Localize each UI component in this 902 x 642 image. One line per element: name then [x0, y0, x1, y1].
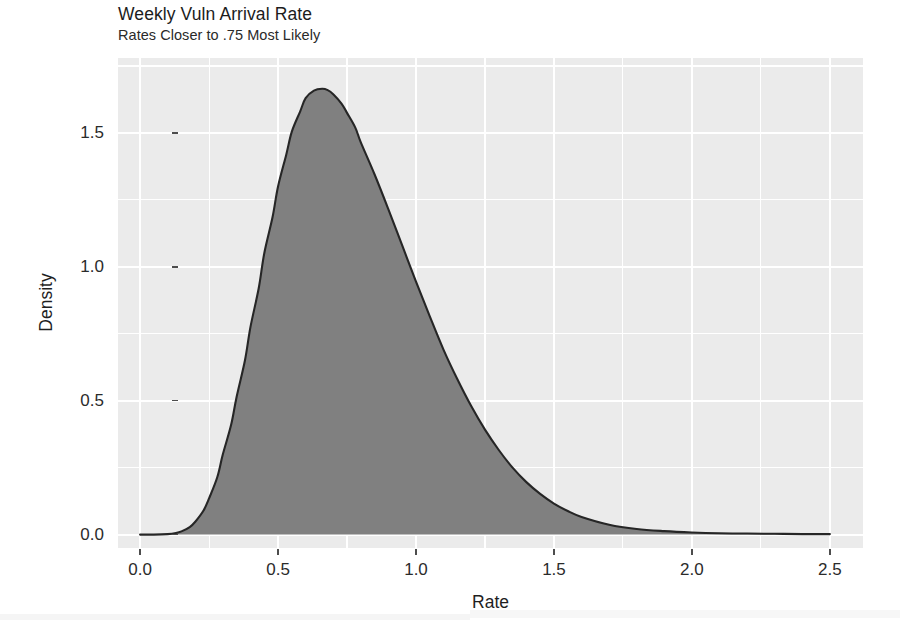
x-tick-label: 1.0	[376, 561, 456, 579]
x-tick-label: 2.5	[790, 561, 870, 579]
x-tick-label: 0.0	[100, 561, 180, 579]
x-tick-label: 1.5	[514, 561, 594, 579]
x-tick-mark	[829, 549, 830, 555]
x-tick-label: 0.5	[238, 561, 318, 579]
x-tick-mark	[553, 549, 554, 555]
x-tick-mark	[139, 549, 140, 555]
x-axis-ticks: 0.00.51.01.52.02.5	[0, 0, 902, 642]
density-plot-figure: Weekly Vuln Arrival Rate Rates Closer to…	[0, 0, 902, 642]
x-tick-mark	[277, 549, 278, 555]
x-tick-mark	[415, 549, 416, 555]
x-tick-mark	[691, 549, 692, 555]
y-axis-title: Density	[36, 233, 57, 373]
x-tick-label: 2.0	[652, 561, 732, 579]
x-axis-title: Rate	[1, 592, 902, 613]
